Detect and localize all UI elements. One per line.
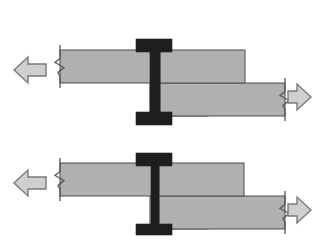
diagram-canvas: Beam-to-column moment connection deforma… — [0, 0, 315, 245]
upper-right-beam-lower — [160, 83, 285, 116]
lower-left-beam — [60, 163, 160, 196]
upper-left-beam — [60, 50, 160, 83]
lower-right-beam-lower — [159, 196, 285, 229]
connection-diagram — [0, 0, 315, 245]
upper-right-beam-top — [160, 50, 245, 83]
lower-right-beam-top — [159, 163, 244, 196]
upper-column-web — [150, 39, 160, 125]
lower-column-web — [151, 153, 159, 235]
